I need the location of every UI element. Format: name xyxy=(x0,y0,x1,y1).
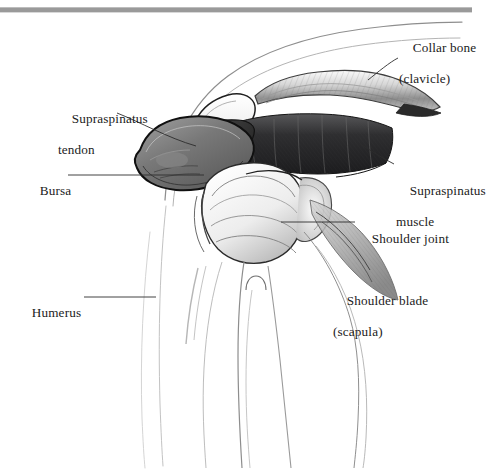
illustration-page: Collar bone (clavicle) Supraspinatus ten… xyxy=(0,0,487,469)
label-bursa: Bursa xyxy=(26,167,71,214)
label-supraspinatus-tendon-line1: Supraspinatus xyxy=(72,111,148,126)
label-collar-bone-line2: (clavicle) xyxy=(399,71,476,87)
label-shoulder-joint: Shoulder joint xyxy=(358,215,449,262)
label-collar-bone-line1: Collar bone xyxy=(413,40,477,55)
label-shoulder-joint-line1: Shoulder joint xyxy=(372,231,449,246)
label-collar-bone: Collar bone (clavicle) xyxy=(399,24,476,117)
label-supraspinatus-tendon: Supraspinatus tendon xyxy=(58,95,148,188)
label-supraspinatus-muscle-line1: Supraspinatus xyxy=(410,183,486,198)
humerus-shaft-shape xyxy=(186,262,291,468)
label-supraspinatus-tendon-line2: tendon xyxy=(58,142,148,158)
label-shoulder-blade: Shoulder blade (scapula) xyxy=(333,277,428,370)
label-shoulder-blade-line1: Shoulder blade xyxy=(347,293,429,308)
label-humerus: Humerus xyxy=(18,289,81,336)
label-shoulder-blade-line2: (scapula) xyxy=(333,324,428,340)
humeral-head-shape xyxy=(194,163,304,263)
label-humerus-line1: Humerus xyxy=(32,305,81,320)
label-bursa-line1: Bursa xyxy=(40,183,72,198)
